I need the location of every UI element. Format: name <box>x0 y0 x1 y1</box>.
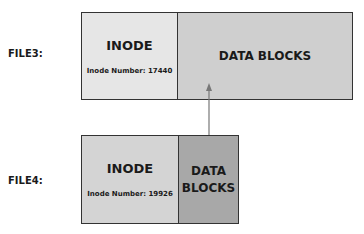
file4-data-title-line1: DATA <box>191 163 226 180</box>
file4-inode: INODE Inode Number: 19926 <box>82 136 179 223</box>
file3-inode-number: Inode Number: 17440 <box>87 67 173 75</box>
file3-label: FILE3: <box>8 48 43 59</box>
file4-inode-title: INODE <box>107 161 153 176</box>
link-arrow-icon <box>204 82 216 138</box>
file3-inode: INODE Inode Number: 17440 <box>82 13 178 99</box>
file3-block: INODE Inode Number: 17440 DATA BLOCKS <box>81 12 353 100</box>
file3-inode-title: INODE <box>106 38 152 53</box>
file4-inode-number: Inode Number: 19926 <box>87 190 173 198</box>
file4-label: FILE4: <box>8 175 43 186</box>
file4-data-title-line2: BLOCKS <box>182 180 235 197</box>
file3-data-title: DATA BLOCKS <box>219 48 311 65</box>
file4-data-blocks: DATA BLOCKS <box>179 136 238 223</box>
file4-block: INODE Inode Number: 19926 DATA BLOCKS <box>81 135 239 224</box>
